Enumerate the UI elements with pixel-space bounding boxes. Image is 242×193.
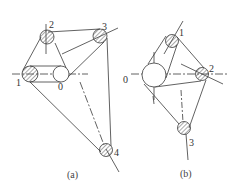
center-line-0-3 [181,90,183,122]
label-b-3: 3 [189,138,194,148]
belt-1-2 [23,37,41,70]
subfigure-b [131,21,229,160]
belt-0-3 [144,84,179,124]
subfigure-a [12,24,119,172]
belt-1-4 [30,82,101,152]
pulley-b-3 [178,122,191,135]
subfigure-label-a: (a) [67,170,78,180]
label-a-0: 0 [58,82,63,92]
label-b-2: 2 [209,64,214,74]
line-3-ext [186,134,188,160]
belt-0-1-right [166,45,177,78]
pulley-b-1 [166,35,179,48]
belt-2-3 [48,29,100,32]
belt-1-2 [177,37,204,68]
label-a-2: 2 [49,20,54,30]
belt-0-1-left [148,36,166,64]
belt-0-3 [67,42,104,78]
belt-2-3 [189,80,206,128]
belt-3-4 [107,38,111,146]
label-a-3: 3 [102,22,107,32]
belt-drive-diagram [0,0,242,193]
subfigure-label-b: (b) [180,169,192,179]
pulley-a-0 [53,66,69,82]
label-a-1: 1 [16,78,21,88]
pulley-a-2 [40,30,54,44]
center-line-0-4 [80,82,104,145]
label-b-0: 0 [123,75,128,85]
pulley-a-4 [100,144,113,157]
label-b-1: 1 [179,28,184,38]
pulley-b-0 [142,63,166,87]
pulley-b-2 [196,68,209,81]
line-2-3-ext [62,28,118,54]
pulley-a-1 [22,66,38,82]
figure-caption-faint [70,186,180,190]
label-a-4: 4 [114,148,119,158]
